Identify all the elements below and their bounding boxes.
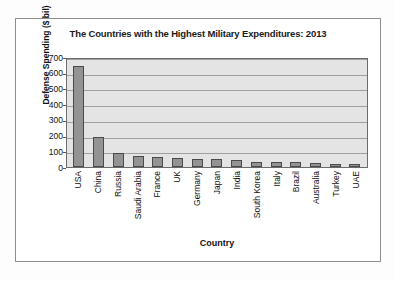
x-axis-tick-label: India (232, 171, 242, 189)
bar (310, 163, 321, 167)
x-axis-tick-label: Turkey (331, 171, 341, 197)
x-axis-tick-slot: UAE (350, 169, 361, 229)
bar (192, 159, 203, 167)
x-axis-tick-slot: Brazil (291, 169, 302, 229)
x-axis-tick-label: Russia (113, 171, 123, 197)
y-axis-tick-labels: 7006005004003002001000 (38, 54, 63, 164)
x-axis-tick-slot: India (231, 169, 242, 229)
x-axis-tick-slot: Saudi Arabia (132, 169, 143, 229)
bar (330, 164, 341, 167)
chart-title: The Countries with the Highest Military … (28, 28, 368, 39)
x-axis-tick-slot: USA (72, 169, 83, 229)
bar (290, 162, 301, 167)
x-axis-tick-slot: Germany (192, 169, 203, 229)
x-axis-tick-labels: USAChinaRussiaSaudi ArabiaFranceUKGerman… (66, 169, 368, 229)
x-axis-tick-slot: Russia (112, 169, 123, 229)
x-axis-tick-label: Germany (192, 171, 202, 206)
x-axis-tick-label: China (93, 171, 103, 193)
x-axis-tick-slot: Italy (271, 169, 282, 229)
x-axis-tick-slot: South Korea (251, 169, 262, 229)
x-axis-tick-label: UK (172, 171, 182, 183)
x-axis-tick-label: France (152, 171, 162, 197)
x-axis-tick-label: Italy (272, 171, 282, 187)
x-axis-title: Country (66, 238, 368, 248)
y-axis-tick-label: 700 (49, 54, 63, 63)
x-axis-tick-slot: Australia (311, 169, 322, 229)
y-axis-tick-label: 100 (49, 148, 63, 157)
bar (152, 157, 163, 167)
x-axis-tick-slot: Turkey (331, 169, 342, 229)
bar (211, 159, 222, 167)
bar-series (67, 59, 367, 167)
bar (172, 158, 183, 167)
bar (133, 156, 144, 167)
plot-area (66, 58, 368, 168)
x-axis-tick-label: Australia (311, 171, 321, 204)
y-axis-tick-label: 400 (49, 101, 63, 110)
x-axis-tick-label: Brazil (291, 171, 301, 192)
y-axis-tick-label: 600 (49, 69, 63, 78)
bar (271, 162, 282, 167)
y-axis-tick-label: 500 (49, 85, 63, 94)
x-axis-tick-slot: Japan (211, 169, 222, 229)
bar (73, 66, 84, 167)
x-axis-tick-slot: France (152, 169, 163, 229)
x-axis-tick-slot: UK (172, 169, 183, 229)
bar (251, 162, 262, 167)
chart-figure: The Countries with the Highest Military … (0, 0, 395, 281)
bar (93, 137, 104, 167)
x-axis-tick-label: South Korea (252, 171, 262, 218)
x-axis-tick-label: USA (73, 171, 83, 188)
x-axis-tick-label: Japan (212, 171, 222, 194)
bar (113, 153, 124, 167)
y-axis-tick-label: 200 (49, 132, 63, 141)
bar (349, 164, 360, 167)
bar (231, 160, 242, 167)
x-axis-tick-label: Saudi Arabia (133, 171, 143, 219)
x-axis-tick-slot: China (92, 169, 103, 229)
x-axis-tick-label: UAE (351, 171, 361, 188)
y-axis-tick-label: 300 (49, 116, 63, 125)
